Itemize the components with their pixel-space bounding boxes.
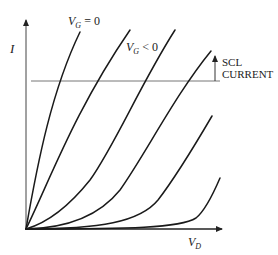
label-vg-negative: VG < 0 [126, 40, 158, 56]
curves [26, 30, 220, 229]
scl-label-line2: CURRENT [222, 68, 274, 80]
curve-vg-neg-2 [26, 30, 175, 229]
curve-vg-neg-4 [26, 116, 212, 229]
x-axis-label: VD [188, 235, 201, 251]
y-axis-label: I [9, 41, 15, 56]
iv-characteristic-diagram: I VG = 0 VG < 0 SCL CURRENT VD [0, 0, 278, 255]
scl-label-line1: SCL [222, 56, 242, 68]
curve-vg-neg-1 [26, 30, 130, 229]
label-vg-zero: VG = 0 [68, 14, 100, 30]
curve-vg-neg-3 [26, 51, 211, 229]
